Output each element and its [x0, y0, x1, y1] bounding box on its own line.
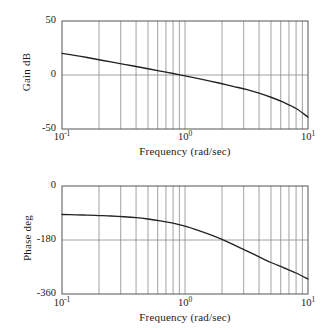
gain-x-tick-1: 100 [165, 131, 205, 142]
phase-x-tick-0-exp: -1 [64, 295, 70, 304]
gain-x-tick-1-exp: 0 [188, 129, 192, 138]
phase-x-tick-2-exp: 1 [311, 295, 315, 304]
phase-x-tick-2-base: 10 [301, 297, 312, 308]
phase-x-tick-1: 100 [165, 297, 205, 308]
bode-plot-figure: Gain dB Frequency (rad/sec) 50 0 -50 10-… [0, 0, 335, 330]
phase-x-tick-0-base: 10 [54, 297, 65, 308]
gain-x-tick-0-exp: -1 [64, 129, 70, 138]
gain-y-tick-mid: 0 [2, 68, 56, 79]
gain-magnitude-panel: Gain dB Frequency (rad/sec) 50 0 -50 10-… [0, 0, 335, 165]
phase-y-tick-top: 0 [2, 179, 56, 190]
phase-x-tick-1-exp: 0 [188, 295, 192, 304]
phase-x-axis-label: Frequency (rad/sec) [62, 311, 308, 323]
gain-x-tick-1-base: 10 [178, 131, 189, 142]
gain-x-tick-2-exp: 1 [311, 129, 315, 138]
gain-x-axis-label: Frequency (rad/sec) [62, 145, 308, 157]
gain-y-tick-top: 50 [2, 14, 56, 25]
gain-x-tick-0-base: 10 [54, 131, 65, 142]
gain-x-tick-2-base: 10 [301, 131, 312, 142]
gain-x-tick-0: 10-1 [42, 131, 82, 142]
phase-x-tick-2: 101 [288, 297, 328, 308]
gain-x-tick-2: 101 [288, 131, 328, 142]
phase-x-tick-1-base: 10 [178, 297, 189, 308]
phase-x-tick-0: 10-1 [42, 297, 82, 308]
phase-y-tick-mid: -180 [2, 233, 56, 244]
